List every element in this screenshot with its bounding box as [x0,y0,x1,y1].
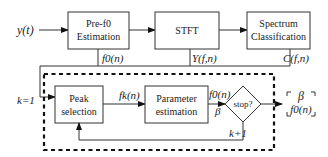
flow-diagram: y(t) Pre-f0 Estimation STFT Spectrum Cla… [0,0,328,157]
svg-text:Peak: Peak [69,93,88,104]
input-label: y(t) [16,23,34,37]
svg-text:selection: selection [61,106,97,117]
svg-text:f0(n): f0(n) [290,103,312,116]
bracket-top-right [311,92,315,96]
svg-text:Pre-f0: Pre-f0 [86,18,111,29]
arrow-loop-back [79,122,243,140]
svg-text:Parameter: Parameter [156,93,197,104]
label-fkn: fk(n) [119,89,140,102]
svg-text:STFT: STFT [175,25,198,36]
svg-text:stop?: stop? [234,99,253,109]
svg-text:Estimation: Estimation [77,31,120,42]
label-f0n-pre: f0(n) [102,52,124,65]
label-yfn: Y(f,n) [192,52,217,65]
output-vector: β f0(n) [287,89,315,116]
label-beta-param: β [214,105,221,117]
svg-text:estimation: estimation [156,106,198,117]
label-f0n-param: f0(n) [209,88,231,101]
block-pre-f0-estimation: Pre-f0 Estimation [68,12,129,49]
bracket-top-left [287,92,291,96]
label-k-init: k=1 [17,94,35,106]
block-spectrum-classification: Spectrum Classification [247,12,310,49]
decision-stop: stop? [225,86,261,122]
label-cfn: C(f,n) [283,52,309,65]
block-peak-selection: Peak selection [55,86,103,123]
block-parameter-estimation: Parameter estimation [145,86,208,123]
block-stft: STFT [155,12,219,49]
svg-text:Spectrum: Spectrum [259,18,298,29]
label-k-next: k+1 [229,127,247,139]
svg-text:β: β [297,89,304,103]
svg-text:Classification: Classification [251,31,306,42]
